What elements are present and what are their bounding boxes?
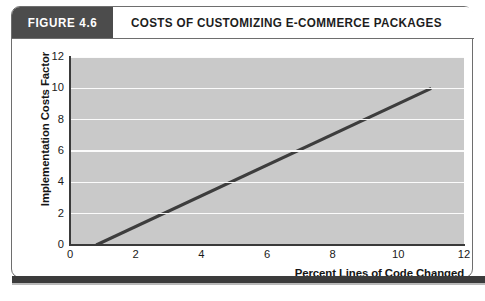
y-tick-label-10: 10 — [52, 83, 64, 94]
figure-bottom-rule — [12, 276, 485, 283]
y-tick-label-12: 12 — [52, 51, 64, 62]
figure-frame: FIGURE 4.6 COSTS OF CUSTOMIZING E-COMMER… — [11, 6, 473, 278]
figure-number-label: FIGURE 4.6 — [28, 16, 98, 30]
x-tick-label-0: 0 — [67, 249, 73, 260]
x-tick-label-6: 6 — [264, 249, 270, 260]
x-tick-label-2: 2 — [133, 249, 139, 260]
y-tick-label-6: 6 — [58, 145, 64, 156]
figure-number-box: FIGURE 4.6 — [12, 7, 113, 38]
gridline-y-6 — [70, 150, 464, 152]
plot-area — [70, 57, 464, 245]
gridline-y-4 — [70, 182, 464, 184]
figure-title-box: COSTS OF CUSTOMIZING E-COMMERCE PACKAGES — [113, 7, 474, 38]
y-tick-label-8: 8 — [58, 114, 64, 125]
figure-title: COSTS OF CUSTOMIZING E-COMMERCE PACKAGES — [131, 16, 442, 30]
x-axis-tick-labels: 024681012 — [12, 249, 474, 267]
x-tick-label-12: 12 — [458, 249, 470, 260]
x-axis-spine — [69, 244, 465, 246]
gridline-y-2 — [70, 213, 464, 215]
figure-header: FIGURE 4.6 COSTS OF CUSTOMIZING E-COMMER… — [12, 7, 474, 38]
chart-area: Implementation Costs Factor 024681012 02… — [12, 39, 474, 277]
x-tick-label-4: 4 — [198, 249, 204, 260]
figure-bottom-rule-shadow — [12, 283, 485, 285]
gridline-y-12 — [70, 57, 464, 58]
series-line — [96, 88, 431, 245]
x-tick-label-8: 8 — [330, 249, 336, 260]
x-tick-label-10: 10 — [392, 249, 404, 260]
y-tick-label-4: 4 — [58, 177, 64, 188]
y-axis-spine — [69, 56, 71, 246]
y-tick-label-2: 2 — [58, 208, 64, 219]
gridline-y-8 — [70, 119, 464, 121]
gridline-y-10 — [70, 88, 464, 90]
y-axis-tick-labels: 024681012 — [44, 39, 64, 277]
